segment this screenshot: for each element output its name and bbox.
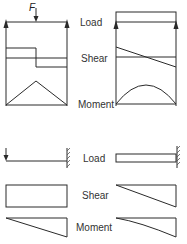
moment-diagram bbox=[6, 218, 67, 237]
case-simply-supported-uniform-load bbox=[114, 12, 179, 106]
force-arrow-icon bbox=[4, 155, 9, 161]
distributed-load bbox=[116, 12, 176, 22]
label-moment: Moment bbox=[76, 222, 112, 233]
label-moment: Moment bbox=[78, 99, 114, 110]
case-cantilever-uniform-load bbox=[116, 146, 180, 237]
reaction-arrow-icon bbox=[174, 20, 179, 29]
shear-diagram bbox=[116, 185, 176, 207]
moment-diagram bbox=[6, 81, 67, 105]
label-shear: Shear bbox=[81, 53, 108, 64]
shear-diagram bbox=[6, 185, 67, 207]
reaction-arrow-icon bbox=[114, 20, 119, 29]
label-load: Load bbox=[83, 153, 105, 164]
reaction-arrow-icon bbox=[4, 19, 9, 28]
distributed-load bbox=[116, 154, 176, 162]
reaction-arrow-icon bbox=[65, 19, 70, 28]
moment-diagram bbox=[116, 85, 176, 104]
force-label: F bbox=[29, 2, 36, 13]
beam-diagrams: F Load Shear Moment bbox=[0, 0, 187, 244]
moment-diagram bbox=[116, 218, 176, 237]
label-shear: Shear bbox=[82, 190, 109, 201]
case-simply-supported-point-load: F bbox=[4, 2, 70, 106]
case-cantilever-point-load bbox=[4, 148, 71, 237]
label-load: Load bbox=[80, 17, 102, 28]
force-arrow-icon bbox=[34, 16, 39, 22]
